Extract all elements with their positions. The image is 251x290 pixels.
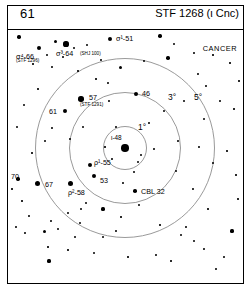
field-star (24, 232, 26, 234)
field-star (86, 44, 88, 46)
field-star (104, 146, 106, 148)
field-star (37, 88, 39, 90)
field-star (166, 56, 169, 59)
star-label: 46 (142, 90, 150, 97)
field-star (73, 47, 76, 50)
field-star (192, 188, 194, 190)
field-star (230, 229, 233, 232)
field-star (212, 162, 214, 164)
field-star (17, 35, 20, 38)
field-star (237, 198, 239, 200)
field-star (15, 226, 17, 228)
sky-field: CANCER 1°3°5°σ⁴-66(STF 1296)σ³-64(SHJ 10… (8, 31, 243, 283)
field-star (46, 54, 48, 56)
field-star (74, 236, 76, 238)
field-star (193, 240, 196, 243)
field-star (85, 202, 87, 204)
field-star (197, 73, 199, 75)
field-star (111, 158, 113, 160)
star-label: σ³-64 (56, 50, 73, 57)
field-star (155, 254, 157, 256)
star-sublabel: (STF 1291) (80, 103, 103, 108)
field-star (115, 126, 117, 128)
field-star (47, 246, 49, 248)
star-label: 70 (11, 173, 19, 180)
field-star (51, 127, 53, 129)
field-star (102, 236, 104, 238)
labeled-star (68, 181, 73, 186)
field-star (127, 256, 129, 258)
constellation-label: CANCER (203, 45, 237, 52)
field-star (158, 34, 161, 37)
field-star (177, 140, 179, 142)
field-star (54, 40, 57, 43)
page-title: STF 1268 (ι Cnc) (155, 7, 239, 19)
star-label: 67 (45, 181, 53, 188)
field-star (43, 230, 46, 233)
field-star (77, 70, 79, 72)
field-star (235, 174, 237, 176)
range-circle-label-5deg: 5° (194, 93, 202, 102)
field-star (47, 259, 50, 262)
field-star (11, 188, 13, 190)
star-chart: 61 STF 1268 (ι Cnc) CANCER 1°3°5°σ⁴-66(S… (0, 0, 251, 290)
labeled-star (35, 181, 40, 186)
field-star (203, 248, 205, 250)
field-star (67, 212, 69, 214)
field-star (215, 268, 217, 270)
star-label: ρ²-58 (68, 189, 85, 196)
field-star (69, 138, 71, 140)
field-star (133, 171, 135, 173)
field-star (23, 104, 25, 106)
field-star (238, 80, 240, 82)
field-star (233, 108, 235, 110)
labeled-star (37, 46, 41, 50)
star-label: 53 (100, 177, 108, 184)
star-label: 57 (89, 94, 97, 101)
field-star (219, 100, 221, 102)
field-star (107, 82, 109, 84)
field-star (28, 215, 30, 217)
labeled-star (88, 163, 92, 167)
field-star (31, 152, 33, 154)
center-star (121, 144, 129, 152)
field-star (153, 148, 155, 150)
star-label: CBL 32 (141, 188, 165, 195)
field-star (100, 59, 102, 61)
field-star (108, 100, 110, 102)
field-star (173, 43, 175, 45)
field-star (205, 85, 207, 87)
field-star (170, 260, 172, 262)
star-label: 61 (49, 108, 57, 115)
star-label: σ¹-51 (116, 35, 133, 42)
field-star (198, 146, 200, 148)
field-star (51, 66, 53, 68)
field-star (93, 252, 95, 254)
field-star (159, 224, 161, 226)
field-star (122, 182, 124, 184)
field-star (148, 122, 150, 124)
field-star (67, 249, 69, 251)
field-star (229, 62, 231, 64)
star-sublabel: (SHJ 100) (80, 52, 101, 57)
field-star (57, 228, 59, 230)
labeled-star (63, 41, 68, 46)
field-star (212, 54, 214, 56)
star-sublabel: (STF 1296) (16, 59, 39, 64)
field-star (101, 207, 104, 210)
field-star (120, 216, 122, 218)
star-label: ρ¹-55 (94, 159, 111, 166)
field-star (180, 234, 182, 236)
field-star (21, 200, 23, 202)
field-star (185, 226, 187, 228)
field-star (138, 204, 140, 206)
field-star (163, 110, 165, 112)
field-star (207, 208, 209, 210)
center-star-label: ι-48 (111, 135, 122, 141)
page-number: 61 (20, 6, 35, 21)
field-star (95, 78, 97, 80)
field-star (119, 66, 122, 69)
labeled-star (133, 189, 137, 193)
field-star (16, 126, 18, 128)
field-star (226, 150, 228, 152)
